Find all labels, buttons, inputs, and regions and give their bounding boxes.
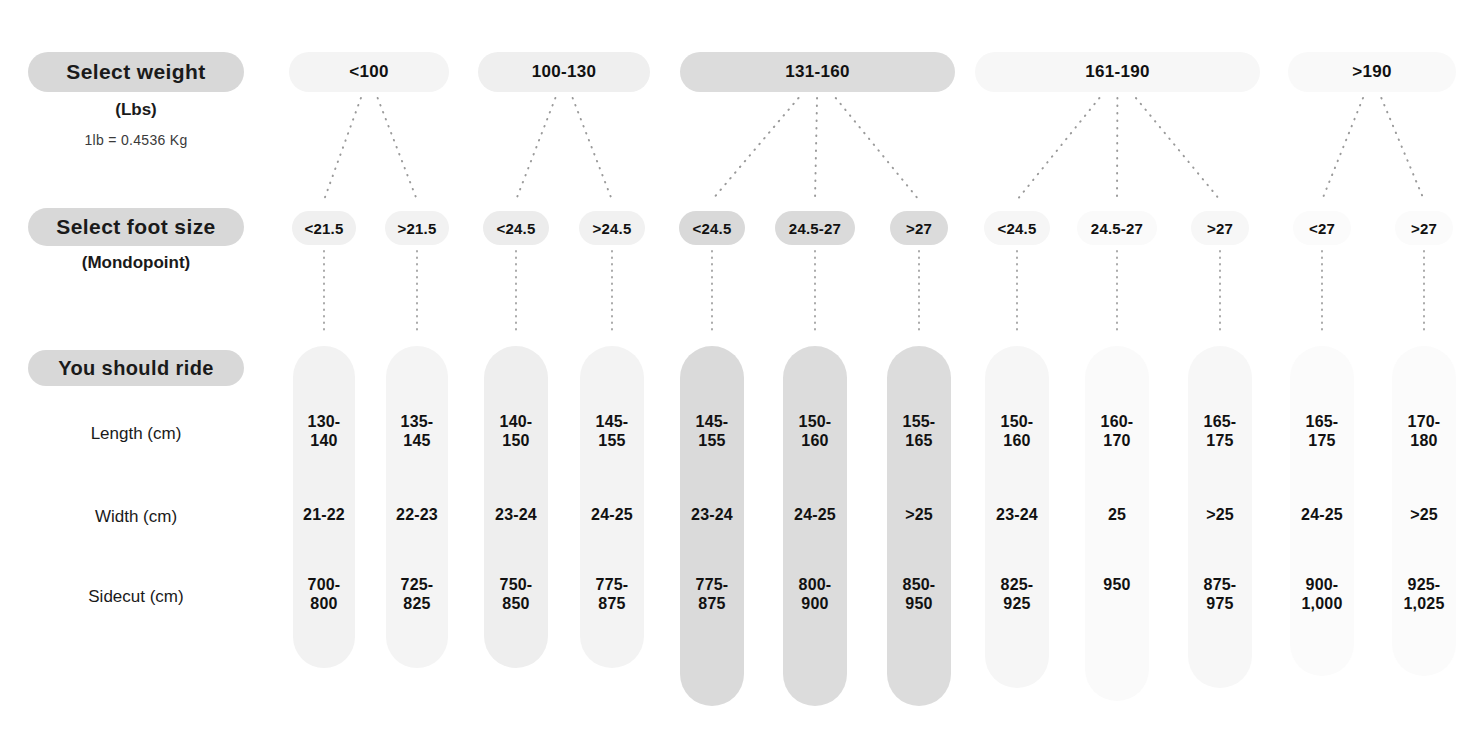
cell-length: 165-175 — [1277, 412, 1367, 450]
you-should-ride-label: You should ride — [28, 350, 244, 386]
weight-pill-100-130[interactable]: 100-130 — [478, 52, 650, 92]
cell-sidecut: 900-1,000 — [1277, 575, 1367, 613]
row-label-sidecut: Sidecut (cm) — [28, 587, 244, 607]
cell-width: 23-24 — [471, 505, 561, 524]
foot-size-pill[interactable]: >21.5 — [385, 211, 449, 245]
board-column[interactable] — [887, 346, 951, 706]
cell-width: 21-22 — [279, 505, 369, 524]
cell-width: 25 — [1072, 505, 1162, 524]
row-label-width: Width (cm) — [28, 507, 244, 527]
cell-width: >25 — [874, 505, 964, 524]
foot-size-pill[interactable]: <21.5 — [292, 211, 356, 245]
cell-length: 135-145 — [372, 412, 462, 450]
cell-sidecut: 925-1,025 — [1379, 575, 1469, 613]
board-column[interactable] — [783, 346, 847, 706]
cell-length: 150-160 — [972, 412, 1062, 450]
cell-width: >25 — [1379, 505, 1469, 524]
foot-size-pill[interactable]: <24.5 — [679, 211, 745, 245]
page-title — [0, 0, 1483, 4]
row-label-length: Length (cm) — [28, 424, 244, 444]
weight-unit-label: (Lbs) — [28, 100, 244, 120]
cell-length: 155-165 — [874, 412, 964, 450]
cell-width: 24-25 — [770, 505, 860, 524]
foot-size-pill[interactable]: <24.5 — [483, 211, 549, 245]
weight-conversion-note: 1lb = 0.4536 Kg — [28, 132, 244, 148]
weight-pill-100[interactable]: <100 — [289, 52, 449, 92]
cell-length: 140-150 — [471, 412, 561, 450]
cell-width: 24-25 — [1277, 505, 1367, 524]
foot-size-pill[interactable]: 24.5-27 — [775, 211, 855, 245]
cell-width: 23-24 — [972, 505, 1062, 524]
cell-length: 150-160 — [770, 412, 860, 450]
foot-size-pill[interactable]: >27 — [1395, 211, 1453, 245]
cell-length: 170-180 — [1379, 412, 1469, 450]
foot-size-pill[interactable]: 24.5-27 — [1077, 211, 1157, 245]
foot-size-pill[interactable]: >24.5 — [579, 211, 645, 245]
cell-width: 23-24 — [667, 505, 757, 524]
cell-length: 130-140 — [279, 412, 369, 450]
cell-width: >25 — [1175, 505, 1265, 524]
board-column[interactable] — [680, 346, 744, 706]
cell-sidecut: 875-975 — [1175, 575, 1265, 613]
cell-sidecut: 850-950 — [874, 575, 964, 613]
foot-size-pill[interactable]: <24.5 — [984, 211, 1050, 245]
cell-length: 160-170 — [1072, 412, 1162, 450]
cell-sidecut: 700-800 — [279, 575, 369, 613]
weight-pill-161-190[interactable]: 161-190 — [975, 52, 1260, 92]
foot-size-pill[interactable]: >27 — [890, 211, 948, 245]
cell-sidecut: 775-875 — [567, 575, 657, 613]
weight-pill-190[interactable]: >190 — [1288, 52, 1456, 92]
cell-length: 145-155 — [567, 412, 657, 450]
cell-sidecut: 725-825 — [372, 575, 462, 613]
cell-sidecut: 950 — [1072, 575, 1162, 594]
select-foot-size-label: Select foot size — [28, 208, 244, 246]
cell-sidecut: 750-850 — [471, 575, 561, 613]
select-weight-label: Select weight — [28, 52, 244, 92]
cell-width: 22-23 — [372, 505, 462, 524]
foot-size-pill[interactable]: <27 — [1293, 211, 1351, 245]
cell-sidecut: 800-900 — [770, 575, 860, 613]
cell-sidecut: 825-925 — [972, 575, 1062, 613]
cell-width: 24-25 — [567, 505, 657, 524]
cell-sidecut: 775-875 — [667, 575, 757, 613]
cell-length: 165-175 — [1175, 412, 1265, 450]
cell-length: 145-155 — [667, 412, 757, 450]
foot-unit-label: (Mondopoint) — [28, 253, 244, 273]
foot-size-pill[interactable]: >27 — [1191, 211, 1249, 245]
weight-pill-131-160[interactable]: 131-160 — [680, 52, 955, 92]
